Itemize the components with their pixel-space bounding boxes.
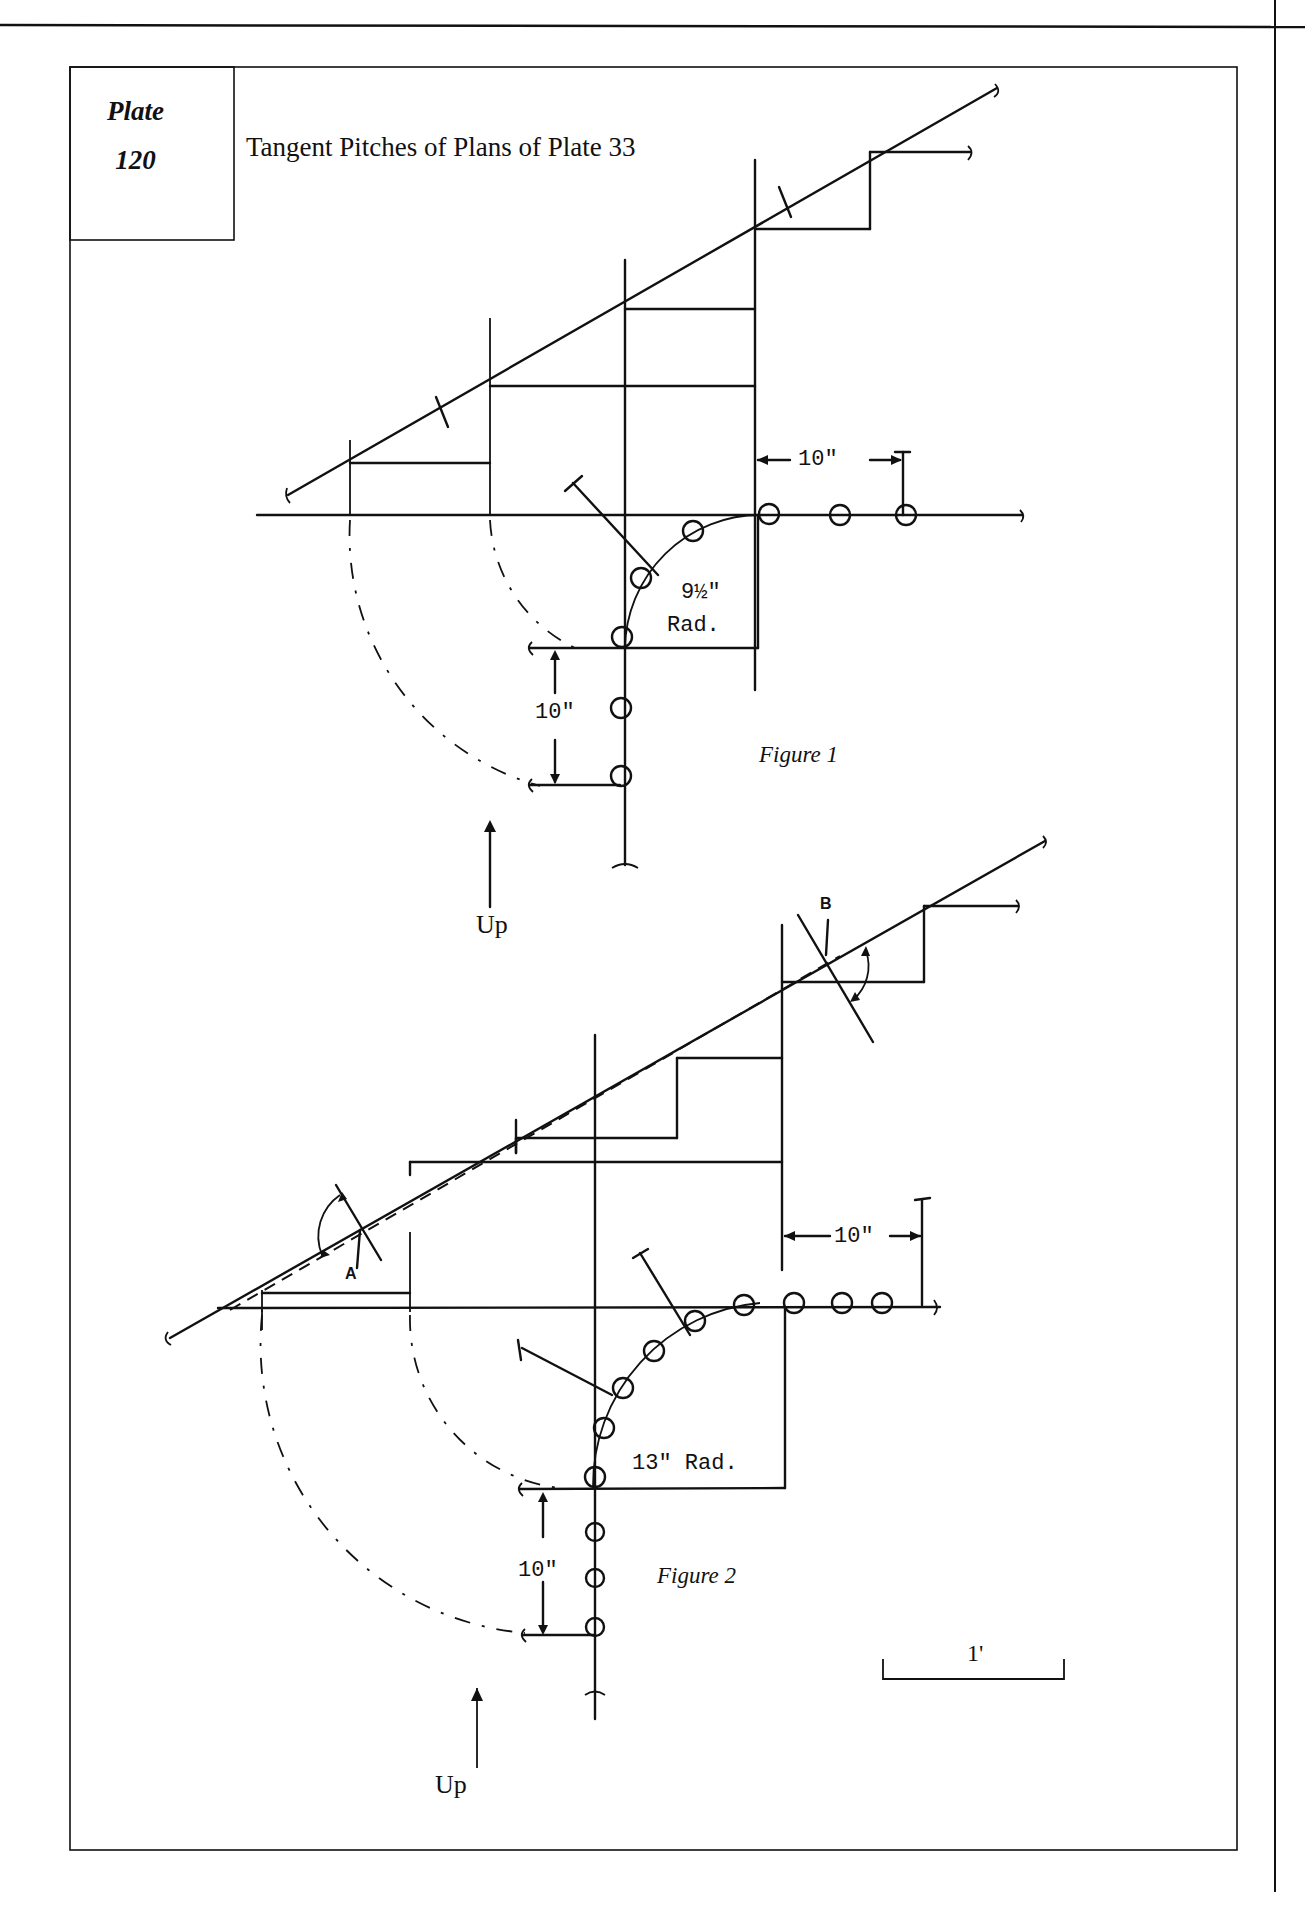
fig1-radius-value: 9½"	[681, 580, 721, 605]
plate-title: Tangent Pitches of Plans of Plate 33	[246, 132, 636, 163]
fig1-radius-unit: Rad.	[667, 613, 720, 638]
point-a-label: A	[345, 1265, 357, 1283]
plate-label: Plate	[68, 96, 203, 127]
fig2-radius-label: 13" Rad.	[632, 1451, 738, 1476]
figure-2-drawing	[166, 836, 1046, 1768]
figure-1-caption: Figure 1	[759, 742, 838, 768]
fig2-up-label: Up	[435, 1770, 467, 1800]
figure-1-drawing	[257, 84, 1023, 907]
fig2-horizontal-dimension: 10"	[834, 1224, 874, 1249]
figure-2-caption: Figure 2	[657, 1563, 736, 1589]
plate-number: 120	[68, 145, 203, 176]
fig1-up-label: Up	[476, 910, 508, 940]
point-b-label: B	[820, 895, 832, 913]
header-rule	[0, 25, 1305, 27]
plate-drawing	[0, 0, 1305, 1911]
fig1-horizontal-dimension: 10"	[798, 447, 838, 472]
plate-frame	[70, 67, 1237, 1850]
scale-bar-label: 1'	[967, 1640, 983, 1667]
fig1-vertical-dimension: 10"	[535, 700, 575, 725]
fig2-vertical-dimension: 10"	[518, 1558, 558, 1583]
